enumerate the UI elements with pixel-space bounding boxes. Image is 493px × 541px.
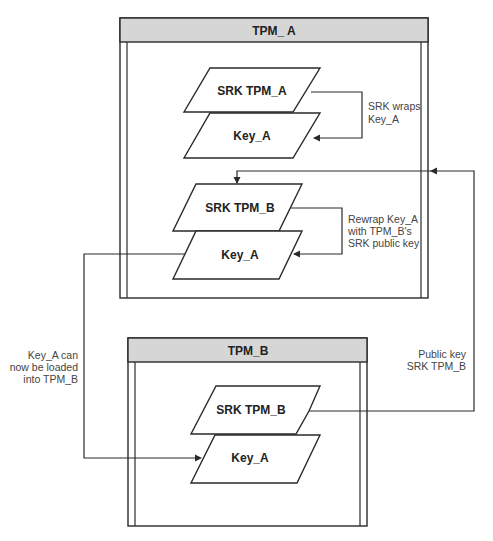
tpm-b-stack: SRK TPM_B Key_A (191, 386, 320, 483)
rewrap-note: Rewrap Key_A with TPM_B's SRK public key (347, 213, 420, 249)
arrowhead-icon (430, 168, 437, 175)
note-line: Rewrap Key_A (348, 213, 418, 225)
tpm-a-lower-stack: SRK TPM_B Key_A (173, 184, 302, 279)
key-a-label: Key_A (233, 129, 271, 143)
key-a-label: Key_A (231, 451, 269, 465)
note-line: with TPM_B's (347, 225, 412, 237)
note-line: Key_A (368, 113, 399, 125)
note-line: Key_A can (28, 349, 78, 361)
note-line: SRK wraps (368, 100, 421, 112)
key-a-label: Key_A (221, 248, 259, 262)
srk-tpm-a-label: SRK TPM_A (217, 84, 287, 98)
srk-tpm-b-label: SRK TPM_B (216, 403, 286, 417)
key-loaded-note: Key_A can now be loaded into TPM_B (10, 349, 78, 385)
public-key-note: Public key SRK TPM_B (407, 348, 467, 372)
note-line: into TPM_B (23, 373, 78, 385)
note-line: SRK public key (348, 237, 420, 249)
tpm-b-title: TPM_B (228, 344, 269, 358)
note-line: SRK TPM_B (407, 360, 466, 372)
srk-tpm-b-label: SRK TPM_B (205, 201, 275, 215)
tpm-a-title: TPM_ A (252, 24, 296, 38)
note-line: now be loaded (10, 361, 78, 373)
tpm-key-migration-diagram: TPM_ A TPM_B SRK TPM_A Key_A SRK TPM_B K… (0, 0, 493, 541)
note-line: Public key (418, 348, 467, 360)
